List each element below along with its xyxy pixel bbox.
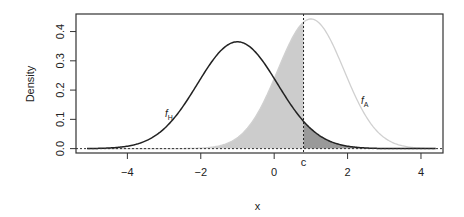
fa-curve-label: fA: [361, 95, 369, 108]
x-tick-label: 0: [271, 166, 277, 178]
density-chart: −4−2024 0.00.10.20.30.4 x Density c fH f…: [0, 0, 464, 217]
x-tick-label: −2: [195, 166, 208, 178]
y-tick-label: 0.1: [54, 112, 66, 127]
y-tick-label: 0.2: [54, 82, 66, 97]
y-axis: 0.00.10.20.30.4: [54, 24, 76, 156]
y-axis-title: Density: [24, 65, 36, 102]
shaded-regions: [76, 22, 443, 148]
x-axis-title: x: [255, 200, 261, 212]
shaded-region-1: [76, 22, 304, 148]
y-tick-label: 0.4: [54, 24, 66, 39]
fa-label-sub: A: [364, 101, 369, 108]
y-tick-label: 0.3: [54, 53, 66, 68]
x-tick-label: 2: [345, 166, 351, 178]
shaded-region-2: [304, 121, 443, 148]
x-tick-label: −4: [121, 166, 134, 178]
x-tick-label: 4: [418, 166, 424, 178]
fh-curve-label: fH: [165, 108, 173, 121]
y-tick-label: 0.0: [54, 141, 66, 156]
fh-label-sub: H: [168, 114, 173, 121]
x-axis: −4−2024: [121, 153, 424, 178]
threshold-label: c: [301, 156, 307, 168]
